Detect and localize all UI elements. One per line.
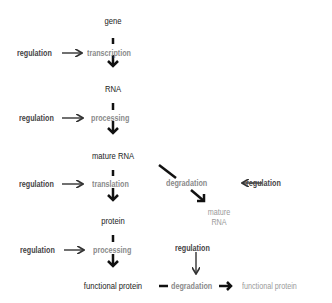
degraded-mature-rna-line1: mature: [207, 207, 231, 217]
regulation-label-degradation-rna: regulation: [246, 178, 281, 188]
process-transcription: transcription: [87, 48, 131, 58]
process-degradation-protein: degradation: [171, 281, 212, 291]
process-processing-rna: processing: [91, 113, 129, 123]
process-degradation-rna: degradation: [166, 178, 207, 188]
node-mature-rna: mature RNA: [88, 151, 139, 161]
node-rna: RNA: [100, 84, 126, 94]
regulation-label-translation: regulation: [19, 179, 54, 189]
process-processing-protein: processing: [93, 245, 131, 255]
degraded-functional-protein: functional protein: [242, 281, 297, 291]
node-functional-protein: functional protein: [79, 281, 147, 291]
degraded-mature-rna-line2: RNA: [207, 217, 231, 227]
node-protein: protein: [96, 216, 130, 226]
diagram-arrows: [0, 0, 332, 303]
regulation-label-transcription: regulation: [17, 48, 52, 58]
process-translation: translation: [92, 179, 129, 189]
regulation-label-processing-rna: regulation: [19, 113, 54, 123]
regulation-label-processing-protein: regulation: [20, 245, 55, 255]
regulation-label-degradation-protein: regulation: [175, 243, 210, 253]
node-gene: gene: [100, 16, 126, 26]
